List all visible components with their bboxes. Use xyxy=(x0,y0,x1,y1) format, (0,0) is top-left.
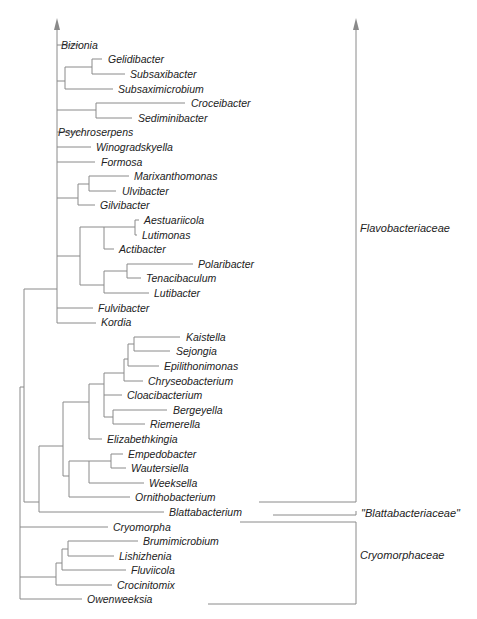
taxon-label: Kordia xyxy=(101,316,131,328)
taxon-label: Tenacibaculum xyxy=(146,272,216,284)
taxon-label: Empedobacter xyxy=(128,448,196,460)
taxon-label: Owenweeksia xyxy=(87,593,152,605)
taxon-label: Gilvibacter xyxy=(100,199,150,211)
taxon-label: Bergeyella xyxy=(173,404,223,416)
taxon-label: Polaribacter xyxy=(198,258,254,270)
arrow-up-icon xyxy=(54,18,60,30)
taxon-label: Lutimonas xyxy=(142,229,190,241)
taxon-label: Chryseobacterium xyxy=(148,375,233,387)
family-label: "Blattabacteriaceae" xyxy=(361,507,460,520)
taxon-label: Riemerella xyxy=(150,418,200,430)
phylogenetic-tree xyxy=(0,0,477,619)
taxon-label: Lishizhenia xyxy=(119,550,172,562)
taxon-label: Fluviicola xyxy=(131,564,175,576)
taxon-label: Sediminibacter xyxy=(138,112,207,124)
family-label: Flavobacteriaceae xyxy=(360,222,450,235)
taxon-label: Fulvibacter xyxy=(98,302,149,314)
taxon-label: Actibacter xyxy=(119,243,166,255)
taxon-label: Subsaximicrobium xyxy=(118,83,204,95)
family-label: Cryomorphaceae xyxy=(360,549,444,562)
taxon-label: Subsaxibacter xyxy=(130,68,197,80)
taxon-label: Croceibacter xyxy=(191,97,251,109)
arrow-up-icon xyxy=(353,18,359,30)
taxon-label: Ulvibacter xyxy=(122,185,169,197)
taxon-label: Cryomorpha xyxy=(113,521,171,533)
taxon-label: Cloacibacterium xyxy=(127,389,202,401)
taxon-label: Elizabethkingia xyxy=(107,433,178,445)
taxon-label: Weeksella xyxy=(149,477,197,489)
taxon-label: Kaistella xyxy=(186,331,226,343)
taxon-label: Gelidibacter xyxy=(108,53,164,65)
taxon-label: Brumimicrobium xyxy=(143,535,219,547)
taxon-label: Formosa xyxy=(101,156,142,168)
taxon-label: Blattabacterium xyxy=(169,506,242,518)
taxon-label: Wautersiella xyxy=(131,462,189,474)
taxon-label: Epilithonimonas xyxy=(164,360,238,372)
taxon-label: Crocinitomix xyxy=(117,579,175,591)
taxon-label: Lutibacter xyxy=(154,287,200,299)
taxon-label: Aestuariicola xyxy=(144,214,204,226)
taxon-label: Bizionia xyxy=(61,39,98,51)
taxon-label: Psychroserpens xyxy=(58,126,133,138)
taxon-label: Ornithobacterium xyxy=(135,491,216,503)
taxon-label: Sejongia xyxy=(176,345,217,357)
taxon-label: Marixanthomonas xyxy=(134,170,217,182)
taxon-label: Winogradskyella xyxy=(96,141,173,153)
